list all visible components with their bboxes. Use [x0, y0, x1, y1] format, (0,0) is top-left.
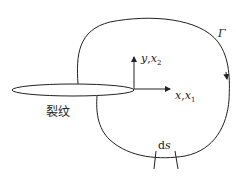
crack-ellipse: [12, 84, 134, 96]
ds-label: ds: [158, 139, 171, 152]
ds-tick-right: [175, 151, 178, 169]
diagram-canvas: [0, 0, 236, 180]
contour-gamma: [77, 18, 229, 157]
ds-s: s: [165, 139, 171, 152]
ds-tick-left: [154, 151, 156, 169]
j-integral-diagram: y,x2 x,x1 Γ 裂纹 ds: [0, 0, 236, 180]
x-axis-label: x,x1: [175, 89, 195, 104]
x1-sub: 1: [191, 96, 195, 104]
crack-label: 裂纹: [46, 102, 70, 119]
y-axis-label: y,x2: [141, 52, 161, 67]
contour-direction-arrow: [226, 72, 227, 79]
x2-sub: 2: [157, 59, 161, 67]
gamma-label: Γ: [218, 27, 226, 40]
